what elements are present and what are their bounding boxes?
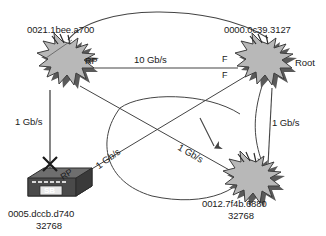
direction-arrow — [200, 118, 214, 146]
link-curve-center — [107, 108, 252, 200]
label-mac-root: 0000.0c39.3127 — [224, 24, 291, 35]
link-label-right: 1 Gb/s — [272, 117, 299, 128]
label-priority-bottom-right: 32768 — [228, 210, 254, 221]
link-label-left: 1 Gb/s — [15, 116, 42, 127]
label-mac-bottom-left: 0005.dccb.d740 — [8, 208, 74, 219]
label-port-root-f2: F — [222, 70, 227, 80]
label-mac-bottom-right: 0012.7f4b.6880 — [202, 198, 267, 209]
link-curve-right — [255, 86, 262, 162]
node-sw-root[interactable] — [235, 33, 297, 89]
label-mac-top-left: 0021.1bee.a700 — [27, 24, 94, 35]
label-port-root-f1: F — [222, 54, 227, 64]
topology-diagram: 0021.1bee.a700 RP 0000.0c39.3127 Root F … — [0, 0, 326, 236]
label-device-sb: SB — [44, 186, 55, 195]
link-curve-center-top — [120, 97, 240, 114]
label-role-top-left: RP — [85, 56, 97, 66]
label-priority-bottom-left: 32768 — [36, 220, 62, 231]
link-label-top: 10 Gb/s — [134, 54, 167, 65]
label-role-root: Root — [295, 57, 315, 68]
